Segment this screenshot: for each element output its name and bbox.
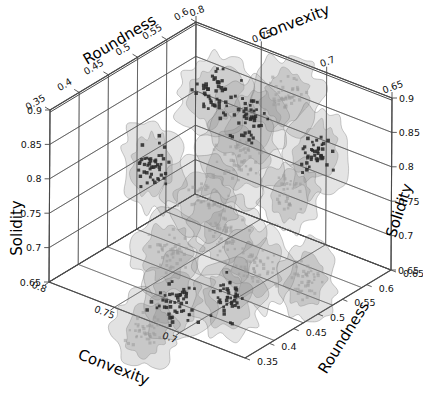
data-point xyxy=(307,284,310,287)
tick-mark-roundness-top xyxy=(103,72,108,75)
data-point xyxy=(166,254,168,256)
tick-label-convexity-bottom: 0.8 xyxy=(30,279,48,295)
data-point xyxy=(228,269,231,272)
data-point xyxy=(229,96,233,100)
data-point xyxy=(321,147,325,151)
tick-label-solidity-right: 0.8 xyxy=(399,161,414,172)
data-point xyxy=(307,271,310,274)
data-point xyxy=(234,248,236,250)
data-point xyxy=(214,231,216,233)
data-point xyxy=(229,241,232,244)
data-point xyxy=(234,304,237,307)
data-point xyxy=(234,286,238,290)
data-point xyxy=(221,79,224,82)
data-point xyxy=(308,166,311,169)
data-point xyxy=(148,233,151,236)
data-point xyxy=(227,195,229,197)
data-point xyxy=(232,169,235,172)
data-point xyxy=(254,161,257,164)
data-point xyxy=(127,342,130,345)
data-point xyxy=(231,135,234,138)
data-point xyxy=(148,245,151,248)
data-point xyxy=(164,183,167,186)
data-point xyxy=(158,165,162,169)
data-point xyxy=(152,332,155,335)
data-point xyxy=(196,195,199,198)
data-point xyxy=(153,316,156,319)
data-point xyxy=(278,202,281,205)
data-point xyxy=(225,299,229,303)
data-point xyxy=(266,118,269,121)
data-point xyxy=(137,169,140,172)
data-point xyxy=(229,229,232,232)
data-point xyxy=(285,97,288,100)
data-point xyxy=(158,142,161,145)
data-point xyxy=(216,205,218,207)
data-point xyxy=(225,287,229,291)
data-point xyxy=(185,247,188,250)
data-point xyxy=(191,186,194,189)
data-point xyxy=(252,136,255,139)
data-point xyxy=(153,341,156,344)
data-point xyxy=(295,182,298,185)
data-point xyxy=(176,262,179,265)
data-point xyxy=(146,181,149,184)
data-point xyxy=(321,281,323,283)
data-point xyxy=(176,296,180,300)
data-point xyxy=(281,98,284,101)
data-point xyxy=(292,187,294,189)
data-point xyxy=(299,183,302,186)
tick-label-convexity-bottom: 0.75 xyxy=(93,303,117,321)
data-point xyxy=(288,96,291,99)
data-point xyxy=(252,99,256,103)
data-point xyxy=(313,273,315,275)
data-point xyxy=(219,289,222,292)
data-point xyxy=(267,257,270,260)
data-point xyxy=(271,76,274,79)
data-point xyxy=(160,163,163,166)
data-point xyxy=(249,260,252,263)
data-point xyxy=(222,217,225,220)
data-point xyxy=(166,243,168,245)
data-point xyxy=(165,271,168,274)
data-point xyxy=(172,228,175,231)
data-point xyxy=(169,305,173,309)
data-point xyxy=(247,138,250,141)
tick-label-solidity-left: 0.85 xyxy=(21,139,42,150)
data-point xyxy=(158,305,161,308)
data-point xyxy=(308,289,311,292)
data-point xyxy=(277,103,280,106)
data-point xyxy=(298,290,300,292)
data-point xyxy=(165,299,169,303)
data-point xyxy=(240,134,243,137)
tick-mark-roundness-top xyxy=(191,19,196,22)
data-point xyxy=(173,301,176,304)
data-point xyxy=(150,173,153,176)
data-point xyxy=(278,177,281,180)
data-point xyxy=(213,76,217,80)
data-point xyxy=(240,266,243,269)
data-point xyxy=(269,82,271,84)
data-point xyxy=(262,263,265,266)
data-point xyxy=(253,261,256,264)
data-point xyxy=(184,266,187,269)
data-point xyxy=(136,335,138,337)
data-point xyxy=(271,272,273,274)
data-point xyxy=(150,300,154,304)
data-point xyxy=(141,143,145,147)
data-point xyxy=(258,274,261,277)
data-point xyxy=(208,197,211,200)
data-point xyxy=(210,223,212,225)
data-point xyxy=(240,160,243,163)
data-point xyxy=(149,157,152,160)
data-point xyxy=(222,229,225,232)
data-point xyxy=(217,254,219,256)
data-point xyxy=(281,86,284,89)
data-point xyxy=(290,180,292,182)
data-point xyxy=(182,309,185,312)
data-point xyxy=(248,255,251,258)
data-point xyxy=(136,315,139,318)
data-point xyxy=(169,301,172,304)
data-point xyxy=(224,100,228,104)
data-point xyxy=(246,260,249,263)
